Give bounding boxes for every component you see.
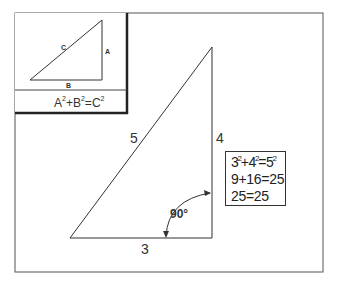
equation-line-3: 25=25 <box>231 188 285 205</box>
equation-box: 32+42=52 9+16=25 25=25 <box>225 151 286 206</box>
pythagorean-diagram: C A B A2+B2=C2 5 4 3 90° <box>0 0 338 284</box>
inset-panel: C A B A2+B2=C2 <box>15 13 128 114</box>
equation-line-2: 9+16=25 <box>231 171 285 188</box>
inset-label-hypotenuse: C <box>61 44 66 51</box>
label-vertical: 4 <box>216 130 224 146</box>
label-angle: 90° <box>170 207 188 221</box>
inset-label-base: B <box>66 82 71 89</box>
arrow-head-right <box>204 190 211 196</box>
label-hypotenuse: 5 <box>130 130 138 146</box>
label-base: 3 <box>141 241 149 257</box>
inset-label-vertical: A <box>105 48 110 55</box>
inset-formula: A2+B2=C2 <box>54 95 105 110</box>
arrow-head-down <box>163 231 169 238</box>
equation-line-1: 32+42=52 <box>231 154 285 171</box>
